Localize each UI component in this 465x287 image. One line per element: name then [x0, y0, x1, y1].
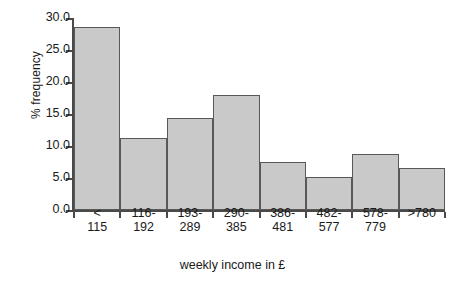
- x-tick-label-line: <: [74, 206, 120, 220]
- x-tick-label-line: 116-: [120, 206, 166, 220]
- x-tick-label-line: 290-: [213, 206, 259, 220]
- x-tick-label: 116-192: [120, 206, 166, 234]
- x-tick-label-line: 481: [260, 220, 306, 234]
- y-tick-label: 5.0: [53, 170, 70, 184]
- y-axis-title: % frequency: [29, 5, 43, 165]
- x-tick-label-line: >780: [399, 206, 445, 220]
- bar: [399, 168, 445, 210]
- histogram-figure: % frequency 0.05.010.015.020.025.030.0 <…: [0, 0, 465, 287]
- bar: [74, 27, 120, 210]
- x-tick-label-line: 115: [74, 220, 120, 234]
- x-tick-label: 386-481: [260, 206, 306, 234]
- x-tick-label: >780: [399, 206, 445, 220]
- x-tick-label-line: 482-: [306, 206, 352, 220]
- x-tick-label-line: 386-: [260, 206, 306, 220]
- plot-area: 0.05.010.015.020.025.030.0: [74, 18, 445, 210]
- x-tick-label-line: 192: [120, 220, 166, 234]
- y-tick-label: 0.0: [53, 202, 70, 216]
- x-tick-label-line: 577: [306, 220, 352, 234]
- x-tick-label-line: 193-: [167, 206, 213, 220]
- x-tick-label: 290-385: [213, 206, 259, 234]
- bar: [260, 162, 306, 210]
- x-tick-label: 482-577: [306, 206, 352, 234]
- x-tick-label: 578-779: [352, 206, 398, 234]
- y-tick-label: 20.0: [46, 74, 70, 88]
- x-tick-label-line: 779: [352, 220, 398, 234]
- x-tick-label: <115: [74, 206, 120, 234]
- x-axis-title: weekly income in £: [0, 258, 465, 272]
- y-tick-label: 30.0: [46, 10, 70, 24]
- bar: [167, 118, 213, 210]
- y-tick-label: 15.0: [46, 106, 70, 120]
- y-tick-label: 10.0: [46, 138, 70, 152]
- bar: [213, 95, 259, 210]
- bar: [352, 154, 398, 210]
- x-tick-label: 193-289: [167, 206, 213, 234]
- bar: [120, 138, 166, 210]
- x-tick-label-line: 289: [167, 220, 213, 234]
- y-tick-label: 25.0: [46, 42, 70, 56]
- x-tick-label-line: 578-: [352, 206, 398, 220]
- x-tick-label-line: 385: [213, 220, 259, 234]
